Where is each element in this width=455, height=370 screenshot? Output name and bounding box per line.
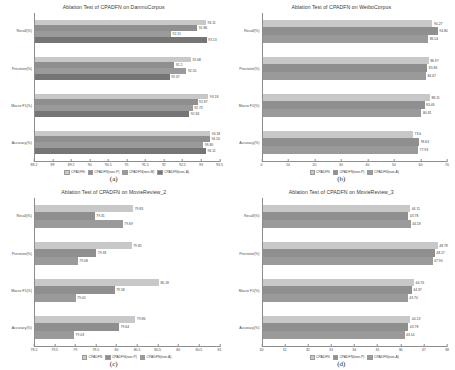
y-axis-labels: Recall(%)Precision(%)Macro F1(%)Accuracy… [4,13,34,162]
x-axis-tick-label: 91 [125,163,129,167]
bar-value-label: 94.16 [210,137,220,141]
bar-row: 83.46 [263,101,448,109]
x-axis-tick-mark [89,159,90,161]
legend-label: CPADFN [71,171,85,174]
bar [263,109,422,117]
bar-value-label: 79.33 [96,251,106,255]
plot-wrap: Recall(%)Precision(%)Macro F1(%)Accuracy… [4,198,220,347]
x-axis-tick-label: 93.5 [216,163,223,167]
bar-row: 86.54 [263,35,448,43]
chart-area: Ablation Test of CPADFN on WeiboCorpusRe… [232,2,452,175]
x-axis-tick-label: 91.5 [142,163,149,167]
bar [35,331,74,339]
bar-value-label: 83.46 [425,103,435,107]
chart-panel-b: Ablation Test of CPADFN on WeiboCorpusRe… [228,0,455,185]
x-axis-tick-mark [261,159,262,161]
bar-value-label: 94.18 [210,132,220,136]
bar [35,249,96,257]
bar [263,205,411,213]
x-axis-tick-mark [288,159,289,161]
legend-label: CPADFN(non-A) [374,356,399,359]
bar [263,138,419,146]
bar [35,205,133,213]
bar-value-label: 77.93 [418,148,428,152]
x-axis-tick-mark [447,344,448,346]
bar-row: 44.18 [263,220,448,228]
bar [35,323,119,331]
x-axis-tick-label: 89 [51,163,55,167]
bar-row: 44.13 [263,316,448,324]
legend-label: CPADFN(non-A) [374,171,399,174]
x-axis-tick-mark [331,344,332,346]
bar-value-label: 92.11 [171,32,181,36]
bar [263,220,411,228]
x-axis-tick-mark [137,344,138,346]
x-axis-tick-label: 20 [313,163,317,167]
bar-value-label: 79.86 [135,317,145,321]
bar [263,35,429,43]
chart-panel-a: Ablation Test of CPADFN on DanmuCorpusRe… [0,0,228,185]
legend-label: CPADFN(non-P) [339,171,364,174]
y-axis-tick-label: Precision(%) [239,252,259,256]
bar-value-label: 79.08 [78,259,88,263]
bar-group: 44.1343.7843.14 [263,309,448,346]
plot-wrap: Recall(%)Precision(%)Macro F1(%)Accuracy… [232,198,448,347]
x-axis-tick-mark [52,159,53,161]
x-axis-tick-label: 38 [445,348,449,352]
plot-canvas: 93.1192.8692.1193.1392.6892.292.5592.079… [34,13,220,162]
x-axis-tick-label: 40 [366,163,370,167]
x-axis-tick-mark [54,344,55,346]
bar-value-label: 86.97 [429,59,439,63]
bar-value-label: 44.37 [412,288,422,292]
bar-row: 47.90 [263,257,448,265]
bar-row: 79.08 [35,257,220,265]
bar-value-label: 84.67 [426,74,436,78]
x-axis-tick-mark [341,159,342,161]
x-axis-tick-label: 78.5 [31,348,38,352]
legend-label: CPADFN [316,356,330,359]
x-axis-tick-label: 0 [261,163,263,167]
x-axis-tick-mark [314,159,315,161]
bar-row: 43.78 [263,323,448,331]
x-axis-tick-mark [34,159,35,161]
bar-row: 84.67 [263,72,448,80]
y-axis-tick-label: Precision(%) [239,67,259,71]
bar-row: 80.81 [263,109,448,117]
y-axis-tick-label: Macro F1(%) [239,104,260,108]
bar-value-label: 43.14 [405,333,415,337]
x-axis-tick-mark [219,344,220,346]
legend-label: CPADFN(non-A) [146,356,171,359]
bar-value-label: 73.6 [413,132,421,136]
bar-value-label: 78.63 [419,140,429,144]
panel-letter: (b) [337,176,345,183]
x-axis-tick-label: 10 [286,163,290,167]
bar-row: 79.69 [35,220,220,228]
bar-value-label: 43.78 [408,214,418,218]
bar-group: 80.1879.5879.05 [35,272,220,309]
x-axis-tick-label: 80 [114,348,118,352]
bar-row: 94.80 [263,27,448,35]
x-axis-tick-label: 50 [392,163,396,167]
bar-row: 79.03 [35,331,220,339]
bar-value-label: 80.18 [159,281,169,285]
x-axis-tick-mark [116,344,117,346]
bar-row: 79.58 [35,286,220,294]
bar-value-label: 88.11 [430,96,440,100]
bar-value-label: 92.68 [191,58,201,62]
x-axis-tick-label: 79.5 [51,348,58,352]
bar [35,242,132,250]
x-axis-tick-mark [34,344,35,346]
bar-group: 93.1892.8792.7392.63 [35,87,220,124]
bar-row: 73.6 [263,131,448,139]
bar [263,94,430,102]
x-axis-tick-mark [75,344,76,346]
legend-label: CPADFN [316,171,330,174]
bar-value-label: 93.13 [207,38,217,42]
x-axis-tick-mark [400,344,401,346]
x-axis-tick-mark [178,344,179,346]
x-axis-tick-mark [261,344,262,346]
x-axis-tick-mark [71,159,72,161]
x-axis-tick-mark [157,344,158,346]
bar [263,20,433,28]
x-axis-tick-mark [420,159,421,161]
